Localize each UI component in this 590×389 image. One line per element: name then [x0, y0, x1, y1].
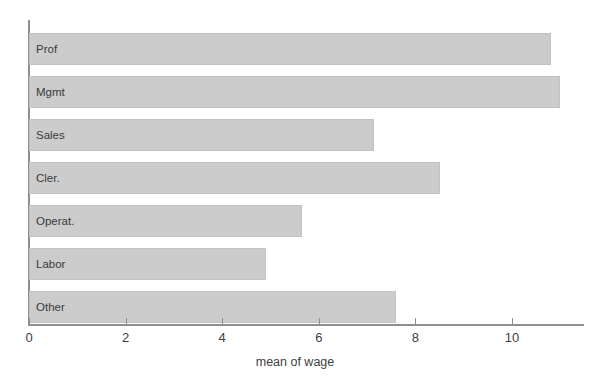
x-axis-line: [28, 324, 584, 326]
x-tick-label: 0: [25, 330, 32, 345]
x-tick-label: 10: [505, 330, 519, 345]
x-tick-mark: [126, 318, 127, 325]
x-tick-label: 8: [412, 330, 419, 345]
bar-prof: [29, 33, 551, 65]
plot-area: Prof Mgmt Sales Cler. Operat. Labor Othe…: [0, 0, 590, 330]
bar-other: [29, 291, 396, 323]
bar-chart: Prof Mgmt Sales Cler. Operat. Labor Othe…: [0, 0, 590, 389]
x-tick-mark: [415, 318, 416, 325]
bar-operat: [29, 205, 302, 237]
x-tick-mark: [29, 318, 30, 325]
x-tick-mark: [222, 318, 223, 325]
x-tick-mark: [319, 318, 320, 325]
x-tick-label: 6: [315, 330, 322, 345]
x-axis-title: mean of wage: [0, 355, 590, 369]
bar-mgmt: [29, 76, 560, 108]
x-tick-label: 2: [122, 330, 129, 345]
x-tick-label: 4: [219, 330, 226, 345]
bar-sales: [29, 119, 374, 151]
bar-labor: [29, 248, 266, 280]
bar-cler: [29, 162, 440, 194]
x-tick-mark: [512, 318, 513, 325]
